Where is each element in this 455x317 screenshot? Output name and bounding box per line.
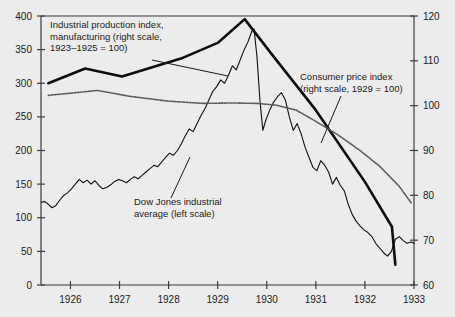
left-axis-tick-label: 300	[15, 78, 32, 89]
annotation-line: manufacturing (right scale,	[50, 31, 162, 42]
annotation-line: Consumer price index	[300, 71, 393, 82]
left-axis-tick-label: 350	[15, 44, 32, 55]
annotation-line: (right scale, 1929 = 100)	[300, 83, 403, 94]
annotation-line: Industrial production index,	[50, 19, 164, 30]
economic-indicators-line-chart: 050100150200250300350400 607080901001101…	[0, 0, 455, 317]
right-axis-tick-label: 90	[423, 145, 435, 156]
right-axis-tick-label: 110	[423, 55, 439, 66]
right-axis-tick-label: 70	[423, 235, 435, 246]
x-axis-tick-label: 1932	[354, 294, 377, 305]
x-axis-tick-label: 1933	[403, 294, 426, 305]
left-axis-tick-label: 100	[15, 212, 32, 223]
right-axis-tick-label: 100	[423, 100, 440, 111]
annotation-line: average (left scale)	[134, 208, 215, 219]
left-axis-tick-label: 50	[21, 246, 33, 257]
left-axis-tick-label: 0	[26, 280, 32, 291]
x-axis-tick-label: 1930	[256, 294, 279, 305]
left-axis-tick-label: 250	[15, 111, 32, 122]
right-axis-tick-label: 120	[423, 11, 440, 22]
x-axis-tick-label: 1927	[108, 294, 131, 305]
consumer-price-index-label: Consumer price index(right scale, 1929 =…	[300, 71, 403, 94]
dow-jones-label: Dow Jones industrialaverage (left scale)	[134, 196, 222, 219]
x-axis-tick-label: 1928	[157, 294, 180, 305]
right-axis-tick-label: 80	[423, 190, 435, 201]
left-axis-tick-label: 150	[15, 179, 32, 190]
annotation-line: Dow Jones industrial	[134, 196, 222, 207]
x-axis-tick-label: 1926	[59, 294, 82, 305]
x-axis-tick-label: 1929	[207, 294, 230, 305]
x-axis-tick-label: 1931	[305, 294, 328, 305]
left-axis-tick-label: 400	[15, 11, 32, 22]
right-axis-tick-label: 60	[423, 280, 435, 291]
annotation-line: 1923–1925 = 100)	[50, 42, 127, 53]
chart-container: 050100150200250300350400 607080901001101…	[0, 0, 455, 317]
left-axis-tick-label: 200	[15, 145, 32, 156]
